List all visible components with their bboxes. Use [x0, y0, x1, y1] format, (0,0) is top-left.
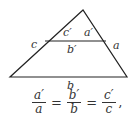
numerator: b′ — [67, 89, 81, 102]
comma: , — [119, 95, 123, 109]
fraction-c: c′ c — [102, 89, 115, 116]
denominator: b — [68, 103, 80, 116]
label-c-prime: c′ — [63, 26, 72, 39]
equals-sign: = — [51, 95, 62, 110]
label-c: c — [31, 38, 37, 51]
proportion-equation: a′ a = b′ b = c′ c , — [30, 86, 122, 118]
denominator: c — [103, 103, 114, 116]
denominator: a — [33, 103, 44, 116]
numerator: c′ — [102, 89, 115, 102]
label-b-prime: b′ — [67, 43, 77, 56]
fraction-a: a′ a — [32, 89, 46, 116]
label-a: a — [113, 39, 120, 52]
fraction-b: b′ b — [67, 89, 81, 116]
equals-sign: = — [86, 95, 97, 110]
numerator: a′ — [32, 89, 46, 102]
label-a-prime: a′ — [84, 26, 94, 39]
